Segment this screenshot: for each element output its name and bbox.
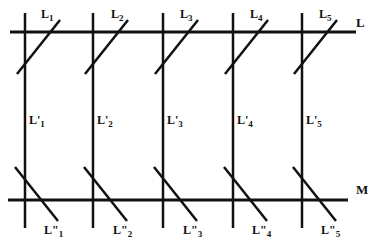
label-L1-double-prime: L"1: [44, 223, 64, 239]
label-L5-prime: L'5: [306, 113, 322, 129]
column-1: L1 L'1 L"1: [15, 7, 64, 239]
column-4: L4 L'4 L"4: [224, 7, 272, 239]
label-L2-prime: L'2: [97, 113, 113, 129]
label-L2-double-prime: L"2: [113, 223, 133, 239]
label-L: L: [356, 15, 365, 30]
label-L1-prime: L'1: [29, 113, 45, 129]
label-M: M: [356, 182, 368, 197]
column-2: L2 L'2 L"2: [84, 7, 133, 239]
label-L4-double-prime: L"4: [252, 223, 272, 239]
label-L2: L2: [111, 7, 124, 23]
label-L4-prime: L'4: [237, 113, 253, 129]
diagram-canvas: L M L1 L'1 L"1 L2 L'2 L"2 L3 L'3 L"3 L4: [0, 0, 376, 243]
column-5: L5 L'5 L"5: [293, 7, 341, 239]
column-3: L3 L'3 L"3: [154, 7, 203, 239]
label-L1: L1: [41, 7, 54, 23]
label-L4: L4: [250, 7, 263, 23]
label-L3: L3: [180, 7, 193, 23]
label-L5-double-prime: L"5: [321, 223, 341, 239]
label-L5: L5: [319, 7, 332, 23]
label-L3-prime: L'3: [167, 113, 183, 129]
label-L3-double-prime: L"3: [183, 223, 203, 239]
line-M: M: [8, 182, 368, 200]
